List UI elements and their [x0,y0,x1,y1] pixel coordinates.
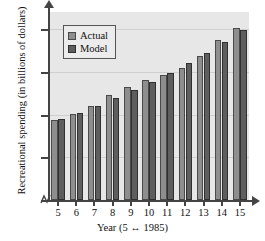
x-tick-label: 14 [212,207,232,218]
arrow-up-icon [44,0,54,8]
x-tick [57,200,59,206]
x-axis-label: Year (5 ↔ 1985) [0,222,265,233]
x-tick [239,200,241,206]
x-tick-label: 11 [157,207,177,218]
bar-model-year-9 [131,90,137,200]
bar-actual-year-14 [215,40,221,200]
x-tick [184,200,186,206]
x-tick [112,200,114,206]
bar-actual-year-12 [179,68,185,200]
bar-model-year-14 [222,42,228,200]
legend-item-model: Model [68,42,108,55]
bar-actual-year-8 [106,95,112,200]
x-tick-label: 12 [175,207,195,218]
bar-actual-year-10 [142,80,148,200]
x-tick-label: 6 [66,207,86,218]
x-tick [166,200,168,206]
bar-actual-year-9 [124,87,130,200]
bar-actual-year-7 [88,106,94,200]
bar-model-year-10 [149,82,155,200]
y-axis-label: Recreational spending (in billions of do… [16,6,27,196]
bar-actual-year-11 [160,75,166,200]
x-tick-label: 9 [121,207,141,218]
bar-model-year-8 [113,98,119,200]
legend-item-actual: Actual [68,29,108,42]
legend-swatch-model-icon [68,45,76,53]
x-tick-label: 7 [84,207,104,218]
x-tick [203,200,205,206]
bar-actual-year-6 [70,114,76,200]
bar-model-year-7 [95,106,101,200]
recreational-spending-bar-chart: Recreational spending (in billions of do… [0,0,265,241]
y-axis-line [48,6,50,202]
bar-model-year-12 [186,63,192,200]
x-tick [75,200,77,206]
bar-model-year-15 [240,30,246,200]
chart-legend: Actual Model [63,25,116,59]
bar-model-year-11 [167,73,173,200]
x-tick [130,200,132,206]
bar-model-year-13 [204,53,210,200]
legend-label-model: Model [80,43,107,55]
x-tick-label: 13 [194,207,214,218]
arrow-right-icon [252,196,260,206]
bar-actual-year-15 [233,28,239,200]
x-tick [221,200,223,206]
bar-model-year-5 [58,119,64,200]
bar-model-year-6 [77,113,83,200]
x-tick-label: 15 [230,207,250,218]
axis-break-zigzag-icon [40,192,52,204]
legend-swatch-actual-icon [68,32,76,40]
x-tick [148,200,150,206]
bar-actual-year-13 [197,56,203,200]
x-tick-label: 10 [139,207,159,218]
legend-label-actual: Actual [80,30,108,42]
x-tick-label: 8 [103,207,123,218]
x-tick-label: 5 [48,207,68,218]
x-tick [93,200,95,206]
bar-actual-year-5 [51,120,57,200]
